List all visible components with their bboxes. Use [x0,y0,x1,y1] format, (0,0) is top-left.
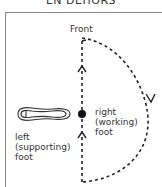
front-label: Front [70,24,93,34]
left-foot-shoe-icon [18,108,70,121]
down-arrow-icon [146,94,155,102]
right-foot-label-line2: (working) [95,117,138,127]
right-foot-label-line3: foot [95,127,113,137]
left-foot-label-line1: left [15,132,30,142]
right-foot-dot [78,110,86,118]
left-foot-label-line2: (supporting) [15,142,71,152]
right-foot-label-line1: right [95,107,116,117]
left-foot-label-line3: foot [15,152,33,162]
